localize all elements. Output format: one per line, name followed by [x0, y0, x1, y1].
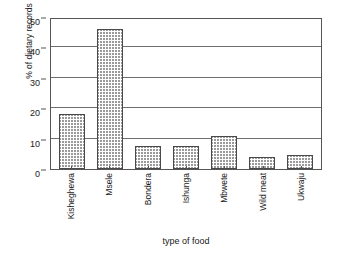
- x-tick-label: Kisheghewa: [66, 173, 76, 219]
- bar: [97, 29, 123, 169]
- bar-slot: [205, 19, 243, 169]
- x-tick-slot: Msele: [90, 171, 128, 233]
- x-tick-slot: Ukwaju: [282, 171, 320, 233]
- x-axis-title: type of food: [50, 236, 322, 246]
- x-tick-mark: [186, 166, 187, 170]
- bar-slot: [129, 19, 167, 169]
- x-tick-slot: Ishunga: [167, 171, 205, 233]
- x-tick-mark: [71, 166, 72, 170]
- x-tick-slot: Mbwete: [205, 171, 243, 233]
- y-tick-mark-20: [41, 109, 46, 110]
- bar-slot: [53, 19, 91, 169]
- x-tick-label: Ishunga: [181, 173, 191, 203]
- x-tick-label: Msele: [104, 173, 114, 196]
- x-tick-mark: [263, 166, 264, 170]
- bar: [59, 114, 85, 169]
- y-tick-mark-0: [41, 170, 46, 171]
- bars-layer: [51, 19, 321, 169]
- x-tick-slot: Kisheghewa: [52, 171, 90, 233]
- x-axis: KisheghewaMseleBonderaIshungaMbweteWild …: [50, 171, 322, 233]
- bar-slot: [243, 19, 281, 169]
- bar-chart: 01020304050 % of dietary records Kishegh…: [0, 0, 346, 264]
- x-tick-label: Ukwaju: [296, 173, 306, 201]
- x-tick-mark: [109, 166, 110, 170]
- y-axis-title: % of dietary records: [24, 0, 34, 116]
- x-tick-mark: [148, 166, 149, 170]
- bar-slot: [281, 19, 319, 169]
- y-tick-mark-50: [41, 18, 46, 19]
- y-tick-mark-40: [41, 48, 46, 49]
- y-tick-mark-10: [41, 139, 46, 140]
- y-tick-mark-30: [41, 78, 46, 79]
- x-tick-label: Bondera: [143, 173, 153, 205]
- x-tick-mark: [301, 166, 302, 170]
- x-tick-slot: Wild meat: [243, 171, 281, 233]
- bar-slot: [167, 19, 205, 169]
- x-tick-mark: [224, 166, 225, 170]
- x-tick-slot: Bondera: [129, 171, 167, 233]
- plot-area: [50, 18, 322, 170]
- bar: [211, 136, 237, 169]
- y-axis: 01020304050: [0, 18, 46, 170]
- x-tick-label: Mbwete: [219, 173, 229, 203]
- bar-slot: [91, 19, 129, 169]
- x-tick-label: Wild meat: [258, 173, 268, 211]
